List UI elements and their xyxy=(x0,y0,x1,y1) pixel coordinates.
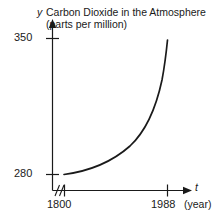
co2-atmosphere-chart: y Carbon Dioxide in the Atmosphere (part… xyxy=(0,0,224,218)
x-axis xyxy=(53,187,193,194)
x-tick-label-1988: 1988 xyxy=(151,199,175,210)
x-axis-arrowhead xyxy=(183,187,192,194)
x-tick-label-1800: 1800 xyxy=(47,199,71,210)
y-axis xyxy=(49,19,56,191)
x-axis-unit-label: (year) xyxy=(184,199,211,210)
y-axis-variable-label: y xyxy=(37,7,42,18)
chart-title: Carbon Dioxide in the Atmosphere xyxy=(46,7,206,18)
co2-curve xyxy=(64,40,168,175)
chart-subtitle: (parts per million) xyxy=(46,19,127,30)
chart-canvas xyxy=(0,0,224,218)
y-tick-label-350: 350 xyxy=(14,32,32,43)
t-axis-variable-label: t xyxy=(195,182,198,193)
y-tick-label-280: 280 xyxy=(14,168,32,179)
